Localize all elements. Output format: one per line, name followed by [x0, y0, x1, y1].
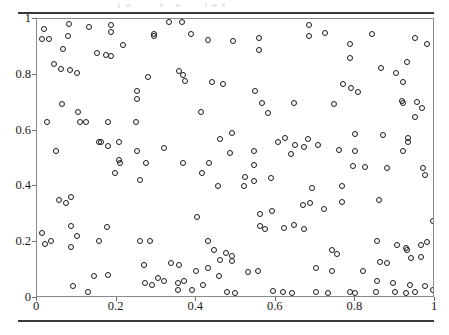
scatter-point: [105, 272, 111, 278]
scatter-point: [105, 143, 111, 149]
scatter-point: [200, 282, 206, 288]
scatter-point: [374, 238, 380, 244]
scatter-point: [205, 265, 211, 271]
scatter-point: [378, 65, 384, 71]
scatter-point: [206, 160, 212, 166]
scatter-point: [198, 109, 204, 115]
scatter-point: [392, 289, 398, 295]
scatter-point: [46, 36, 52, 42]
scatter-point: [325, 290, 331, 296]
scatter-point: [105, 119, 111, 125]
scatter-point: [65, 33, 71, 39]
scatter-point: [291, 100, 297, 106]
scatter-point: [120, 42, 126, 48]
scan-artifact: [222, 3, 225, 7]
scatter-point: [180, 72, 186, 78]
scatter-point: [270, 288, 276, 294]
scatter-point: [229, 130, 235, 136]
scatter-point: [189, 287, 195, 293]
scatter-point: [288, 151, 294, 157]
scatter-point: [313, 265, 319, 271]
scatter-point: [108, 53, 114, 59]
scatter-point: [292, 142, 298, 148]
scatter-point: [257, 211, 263, 217]
scatter-point: [334, 251, 340, 257]
y-tick-label: 0: [0, 291, 31, 304]
scatter-point: [117, 160, 123, 166]
y-tick-label: 0.8: [0, 67, 31, 80]
scatter-point: [374, 278, 380, 284]
scatter-point: [377, 259, 383, 265]
scatter-point: [251, 162, 257, 168]
scatter-point: [347, 55, 353, 61]
scatter-point: [51, 61, 57, 67]
scatter-point: [74, 233, 80, 239]
plot-frame: [36, 18, 434, 297]
scatter-point: [306, 33, 312, 39]
scatter-point: [98, 139, 104, 145]
scatter-point: [227, 150, 233, 156]
bottom-rule-line: [18, 320, 434, 322]
scatter-point: [116, 139, 122, 145]
y-tick-mark: [32, 18, 36, 19]
scatter-point: [412, 35, 418, 41]
y-tick-label: 0.2: [0, 235, 31, 248]
scatter-point: [376, 197, 382, 203]
x-tick-label: 0.8: [347, 300, 363, 313]
scatter-point: [242, 174, 248, 180]
scatter-point: [265, 110, 271, 116]
scatter-point: [384, 165, 390, 171]
scatter-point: [404, 59, 410, 65]
scatter-point: [223, 250, 229, 256]
scatter-point: [168, 260, 174, 266]
scatter-point: [315, 142, 321, 148]
scatter-point: [215, 183, 221, 189]
scatter-point: [420, 165, 426, 171]
scatter-point: [70, 283, 76, 289]
scan-artifact: [205, 3, 207, 7]
scatter-point: [63, 200, 69, 206]
scatter-point: [220, 81, 226, 87]
scatter-point: [336, 147, 342, 153]
scatter-point: [39, 36, 45, 42]
scatter-point: [83, 119, 89, 125]
scatter-point: [280, 289, 286, 295]
scatter-point: [175, 287, 181, 293]
scatter-point: [176, 262, 182, 268]
scatter-point: [217, 136, 223, 142]
scatter-point: [48, 238, 54, 244]
scatter-point: [400, 148, 406, 154]
y-tick-mark: [32, 74, 36, 75]
y-tick-mark: [32, 297, 36, 298]
scatter-point: [42, 241, 48, 247]
scatter-point: [108, 29, 114, 35]
scatter-point: [199, 170, 205, 176]
scatter-point: [404, 247, 410, 253]
y-tick-mark: [32, 130, 36, 131]
scatter-point: [166, 19, 172, 25]
scatter-point: [393, 70, 399, 76]
scatter-point: [424, 239, 430, 245]
scatter-point: [403, 290, 409, 296]
scatter-point: [350, 163, 356, 169]
scatter-point: [205, 238, 211, 244]
scatter-point: [145, 74, 151, 80]
scatter-point: [59, 101, 65, 107]
scatter-point: [418, 254, 424, 260]
scatter-point: [229, 258, 235, 264]
scatter-point: [58, 66, 64, 72]
x-tick-label: 0.2: [108, 300, 124, 313]
scatter-point: [66, 21, 72, 27]
scatter-point: [224, 289, 230, 295]
scatter-point: [321, 206, 327, 212]
scatter-point: [142, 280, 148, 286]
scatter-point: [134, 88, 140, 94]
scatter-point: [161, 278, 167, 284]
scatter-point: [301, 144, 307, 150]
scatter-point: [194, 214, 200, 220]
y-tick-label: 0.4: [0, 179, 31, 192]
scatter-point: [380, 132, 386, 138]
scatter-point: [329, 268, 335, 274]
scatter-points-layer: [37, 19, 433, 296]
scatter-point: [85, 289, 91, 295]
